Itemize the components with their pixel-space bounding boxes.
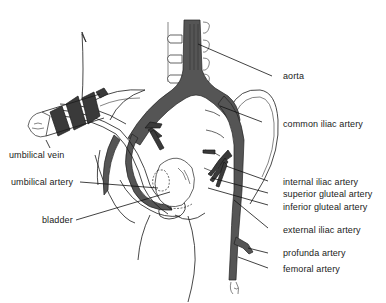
label-superior-gluteal-artery: superior gluteal artery <box>283 189 372 199</box>
label-common-iliac-artery: common iliac artery <box>283 119 363 129</box>
label-inferior-gluteal-artery: inferior gluteal artery <box>283 202 367 212</box>
anatomy-diagram: aorta common iliac artery umbilical vein… <box>0 0 386 303</box>
umbilical-cord <box>28 88 108 137</box>
right-iliac-femoral-vessel <box>218 96 253 294</box>
label-internal-iliac-artery: internal iliac artery <box>283 177 358 187</box>
label-profunda-artery: profunda artery <box>283 248 346 258</box>
aorta-vessel <box>128 20 240 145</box>
label-external-iliac-artery: external iliac artery <box>283 225 361 235</box>
label-umbilical-vein: umbilical vein <box>9 150 64 160</box>
bladder-organ <box>153 158 195 208</box>
label-bladder: bladder <box>42 215 73 225</box>
label-aorta: aorta <box>283 71 304 81</box>
label-femoral-artery: femoral artery <box>283 264 340 274</box>
label-umbilical-artery: umbilical artery <box>11 177 73 187</box>
